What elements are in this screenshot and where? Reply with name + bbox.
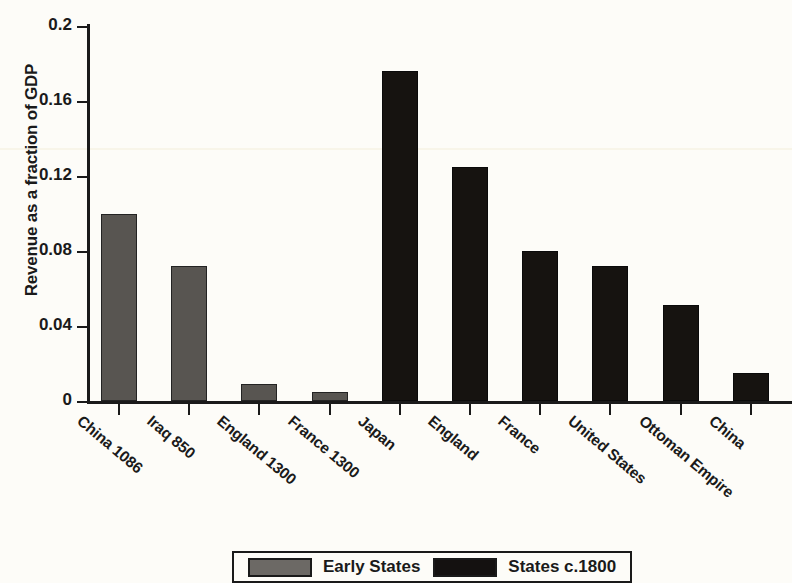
y-axis-tick-label: 0.08 bbox=[39, 240, 72, 260]
bar-iraq-850 bbox=[171, 266, 207, 401]
x-axis-tick bbox=[188, 404, 190, 415]
legend-label-states-c1800: States c.1800 bbox=[508, 557, 616, 577]
y-axis-tick-label: 0.2 bbox=[48, 15, 72, 35]
x-axis-label: France bbox=[495, 412, 545, 458]
y-axis-tick: 0.2 bbox=[77, 26, 87, 28]
y-axis-tick: 0.04 bbox=[77, 326, 87, 328]
legend-swatch-states-c1800 bbox=[433, 558, 497, 577]
chart-figure: Revenue as a fraction of GDP 00.040.080.… bbox=[0, 0, 792, 583]
x-axis-tick bbox=[680, 404, 682, 415]
x-axis-tick bbox=[258, 404, 260, 415]
x-axis-line bbox=[87, 401, 792, 404]
legend: Early States States c.1800 bbox=[232, 551, 632, 583]
legend-swatch-early-states bbox=[248, 558, 312, 577]
x-axis-tick bbox=[399, 404, 401, 415]
x-axis-tick bbox=[469, 404, 471, 415]
y-axis-tick: 0.08 bbox=[77, 251, 87, 253]
bar-united-states bbox=[592, 266, 628, 401]
bar-france bbox=[522, 251, 558, 401]
bar-japan bbox=[382, 71, 418, 401]
x-axis-tick bbox=[539, 404, 541, 415]
bar-china-1086 bbox=[101, 214, 137, 402]
y-axis-line bbox=[87, 24, 90, 403]
legend-label-early-states: Early States bbox=[323, 557, 420, 577]
y-axis-tick-label: 0.12 bbox=[39, 165, 72, 185]
x-axis-label: China bbox=[705, 412, 749, 453]
x-axis-label: Japan bbox=[354, 412, 399, 454]
x-axis-tick bbox=[329, 404, 331, 415]
x-axis-label: Iraq 850 bbox=[144, 412, 199, 462]
x-axis-tick bbox=[118, 404, 120, 415]
x-axis-tick bbox=[750, 404, 752, 415]
y-axis-tick-label: 0.04 bbox=[39, 315, 72, 335]
bar-china bbox=[733, 373, 769, 401]
x-axis-tick bbox=[609, 404, 611, 415]
bar-ottoman-empire bbox=[663, 305, 699, 401]
plot-area: 00.040.080.120.160.2 bbox=[87, 24, 792, 403]
y-axis-tick: 0 bbox=[77, 401, 87, 403]
y-axis-tick: 0.12 bbox=[77, 176, 87, 178]
bar-france-1300 bbox=[312, 392, 348, 401]
y-axis-tick: 0.16 bbox=[77, 101, 87, 103]
bar-england bbox=[452, 167, 488, 401]
x-axis-label: China 1086 bbox=[73, 412, 146, 477]
legend-entry: Early States bbox=[248, 557, 420, 577]
bar-england-1300 bbox=[241, 384, 277, 401]
y-axis-tick-label: 0 bbox=[63, 390, 72, 410]
legend-entry: States c.1800 bbox=[433, 557, 616, 577]
x-axis-label: England bbox=[424, 412, 481, 464]
y-axis-tick-label: 0.16 bbox=[39, 90, 72, 110]
